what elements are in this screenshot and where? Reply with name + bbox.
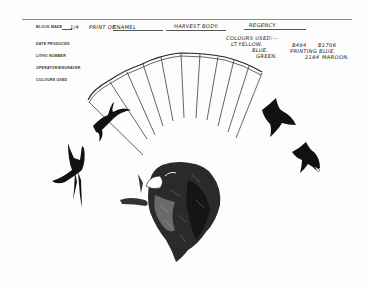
design-sheet: BLOCK MADE DATE PRODUCED LITHO NUMBER OP… [0,0,368,288]
swallow-upper-right-icon [262,98,296,137]
swallow-upper-left-icon [93,102,131,142]
fan-icon [88,53,262,155]
spaniel-dog-head-icon [120,162,220,262]
swallow-lower-left-icon [52,143,85,208]
swallow-lower-right-icon [292,142,320,173]
illustration [0,0,368,288]
